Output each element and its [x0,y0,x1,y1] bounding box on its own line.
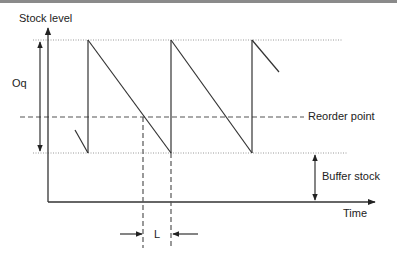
reorder-point-label: Reorder point [308,110,375,122]
order-quantity-label: Oq [12,77,27,89]
stock-sawtooth [75,40,279,153]
lead-time-label: L [154,228,160,240]
x-axis-label: Time [343,207,367,219]
y-axis-label: Stock level [19,12,72,24]
buffer-stock-label: Buffer stock [322,170,380,182]
stock-level-diagram [0,0,397,260]
